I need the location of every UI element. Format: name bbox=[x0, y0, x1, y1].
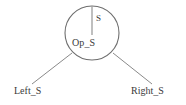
root-node-label: Op_S bbox=[72, 38, 95, 48]
right-edge-line bbox=[113, 53, 152, 84]
right-child-label: Right_S bbox=[131, 86, 164, 96]
left-child-label: Left_S bbox=[14, 86, 41, 96]
head-symbol-label: S bbox=[96, 14, 101, 23]
tree-diagram: S Op_S Left_S Right_S bbox=[0, 0, 186, 105]
left-edge-line bbox=[32, 53, 72, 84]
